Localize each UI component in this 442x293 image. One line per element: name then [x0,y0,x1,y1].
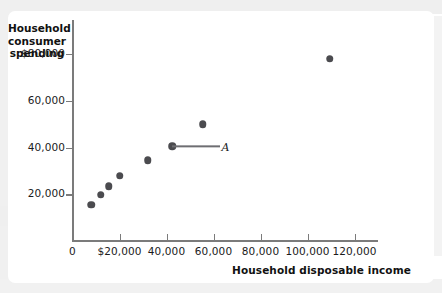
y-axis-tick-label: 60,000 [28,94,65,106]
y-axis-tick-label: 40,000 [28,141,65,153]
scatter-point [116,172,124,180]
x-axis-tick-label: 40,000 [148,245,185,257]
y-axis-tick-mark [66,101,73,102]
figure-scatter-plot: Household consumer spending 20,00040,000… [0,0,442,293]
annotation-label-a: A [221,141,229,154]
x-axis-tick-label: 100,000 [285,245,329,257]
x-axis-tick-label: 60,000 [195,245,232,257]
x-axis-tick-mark [120,234,121,241]
x-axis-line [72,240,378,242]
x-axis-title: Household disposable income [232,264,411,276]
x-axis-tick-label: 0 [69,245,76,257]
scatter-point [199,120,207,128]
scatter-point [97,191,105,199]
x-axis-tick-label: 120,000 [332,245,376,257]
y-axis-tick-mark [66,54,73,55]
y-axis-tick-label: $80,000 [21,47,65,59]
x-axis-tick-mark [261,234,262,241]
x-axis-tick-mark [355,234,356,241]
scan-artifact-right [434,16,442,256]
scatter-point [88,201,96,209]
x-axis-tick-mark [167,234,168,241]
x-axis-tick-label: $20,000 [97,245,141,257]
y-axis-tick-label: 20,000 [28,187,65,199]
x-axis-tick-label: 80,000 [242,245,279,257]
scatter-point [105,182,113,190]
y-axis-title-line-1: Household [8,22,66,35]
y-axis-tick-mark [66,194,73,195]
y-axis-tick-mark [66,148,73,149]
x-axis-tick-mark [308,234,309,241]
annotation-leader-line [172,146,220,147]
scatter-point [144,157,152,165]
y-axis-title-line-2: consumer [8,35,66,48]
scatter-point [326,55,334,63]
x-axis-tick-mark [214,234,215,241]
